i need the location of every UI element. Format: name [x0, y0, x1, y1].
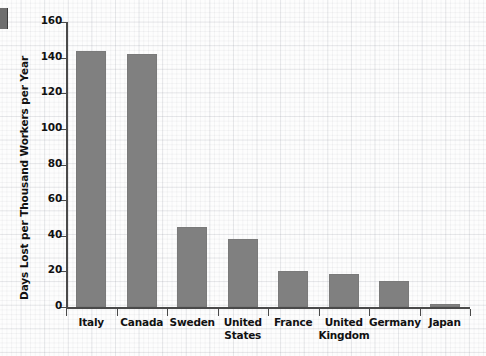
x-axis-label-line: States — [218, 329, 269, 342]
y-axis-line — [66, 22, 68, 309]
x-axis-label: Germany — [369, 316, 420, 329]
y-tick-label: 0 — [55, 299, 62, 311]
y-tick-label: 100 — [41, 121, 62, 133]
x-axis-label-line: Italy — [66, 316, 117, 329]
x-axis-label-line: Kingdom — [319, 329, 370, 342]
y-tick-label: 60 — [48, 192, 62, 204]
x-axis-label: UnitedKingdom — [319, 316, 370, 341]
x-axis-label-line: Japan — [420, 316, 471, 329]
y-tick-label: 120 — [41, 85, 62, 97]
bar — [430, 304, 460, 307]
x-tick-mark — [369, 309, 370, 316]
x-axis-label-line: United — [319, 316, 370, 329]
x-axis-label: Japan — [420, 316, 471, 329]
x-axis-label-line: United — [218, 316, 269, 329]
x-axis-label-line: Canada — [117, 316, 168, 329]
left-edge-marker — [0, 8, 8, 29]
y-tick-label: 160 — [41, 14, 62, 26]
bar — [379, 281, 409, 307]
bar — [76, 51, 106, 308]
y-tick-label: 80 — [48, 157, 62, 169]
x-tick-mark — [268, 309, 269, 316]
x-tick-mark — [470, 309, 471, 316]
bar — [228, 239, 258, 307]
bar — [127, 54, 157, 307]
plot-area: 020406080100120140160 — [66, 22, 470, 309]
x-tick-mark — [319, 309, 320, 316]
x-tick-mark — [167, 309, 168, 316]
x-tick-mark — [66, 309, 67, 316]
bar — [329, 274, 359, 307]
y-tick-label: 40 — [48, 228, 62, 240]
x-tick-mark — [420, 309, 421, 316]
x-axis-label: Canada — [117, 316, 168, 329]
x-axis-label: Sweden — [167, 316, 218, 329]
y-axis-title: Days Lost per Thousand Workers per Year — [16, 52, 32, 304]
y-axis-title-text: Days Lost per Thousand Workers per Year — [18, 56, 30, 300]
x-axis-label-line: Sweden — [167, 316, 218, 329]
bar — [177, 227, 207, 307]
x-axis-label: France — [268, 316, 319, 329]
y-tick-label: 20 — [48, 263, 62, 275]
x-axis-label-line: France — [268, 316, 319, 329]
x-axis-label-line: Germany — [369, 316, 420, 329]
x-axis-label: Italy — [66, 316, 117, 329]
x-axis-label: UnitedStates — [218, 316, 269, 341]
x-tick-mark — [218, 309, 219, 316]
chart-page: Days Lost per Thousand Workers per Year … — [0, 0, 486, 356]
bar — [278, 271, 308, 307]
y-tick-label: 140 — [41, 50, 62, 62]
x-tick-mark — [117, 309, 118, 316]
